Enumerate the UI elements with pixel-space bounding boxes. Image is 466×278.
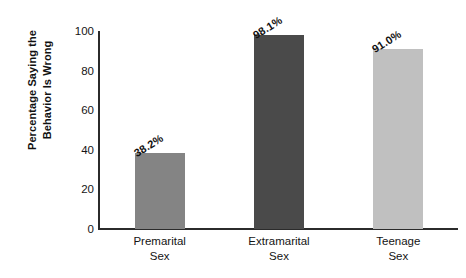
- x-axis-category-line: Sex: [219, 249, 339, 264]
- x-axis-category-line: Premarital: [100, 234, 220, 249]
- y-axis-tick-label: 60: [60, 104, 94, 116]
- x-axis-category-line: Extramarital: [219, 234, 339, 249]
- y-axis-tick: 80: [56, 65, 94, 77]
- y-axis-tick-label: 40: [60, 144, 94, 156]
- y-axis-tick: 100: [56, 25, 94, 37]
- bar: [373, 49, 423, 229]
- bar: [254, 35, 304, 229]
- y-axis-tick: 60: [56, 104, 94, 116]
- y-axis-tick-label: 0: [60, 223, 94, 235]
- x-axis-category-label: PremaritalSex: [100, 234, 220, 264]
- y-axis-title-line-1: Percentage Saying the: [25, 0, 40, 180]
- x-axis-category-label: ExtramaritalSex: [219, 234, 339, 264]
- y-axis-tick-label: 100: [60, 25, 94, 37]
- y-axis-title-line-2: Behavior Is Wrong: [40, 0, 55, 180]
- x-axis-category-line: Sex: [100, 249, 220, 264]
- x-axis-category-line: Teenage: [338, 234, 458, 249]
- bar: [135, 153, 185, 229]
- x-axis-category-line: Sex: [338, 249, 458, 264]
- bar-chart: Percentage Saying the Behavior Is Wrong …: [0, 0, 466, 278]
- plot-area: 38.2%98.1%91.0%: [100, 31, 458, 229]
- y-axis-tick: 0: [56, 223, 94, 235]
- y-axis-tick: 20: [56, 183, 94, 195]
- y-axis-tick: 40: [56, 144, 94, 156]
- y-axis-tick-label: 80: [60, 65, 94, 77]
- x-axis-category-label: TeenageSex: [338, 234, 458, 264]
- y-axis-tick-label: 20: [60, 183, 94, 195]
